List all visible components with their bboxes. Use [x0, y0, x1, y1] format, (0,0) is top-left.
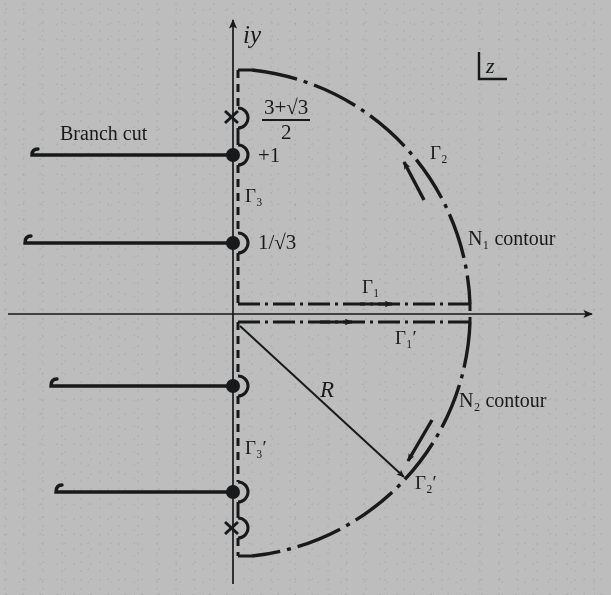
pole-upper-cross — [225, 111, 238, 123]
pole-lower-cross — [225, 522, 238, 534]
gamma1-label: Γ₁ — [362, 277, 380, 296]
branch-cut-4 — [56, 485, 233, 492]
gamma2-label: Γ₂ — [430, 143, 448, 162]
pole-upper-numerator: 3+√3 — [262, 97, 310, 121]
gamma3-prime-label: Γ₃′ — [245, 438, 267, 457]
branch-point-lower-b-dot — [226, 485, 240, 499]
imaginary-axis-label: iy — [243, 22, 261, 47]
branch-point-mid-label: 1/√3 — [258, 232, 296, 253]
gamma2-prime-arc — [252, 322, 470, 556]
branch-point-lower-a-dot — [226, 379, 240, 393]
gamma1-prime-path — [238, 317, 470, 322]
branch-cut-2 — [25, 236, 233, 243]
branch-point-mid-dot — [226, 236, 240, 250]
branch-cut-label: Branch cut — [60, 123, 147, 143]
radius-label: R — [320, 378, 334, 401]
branch-cut-1 — [32, 149, 233, 155]
gamma1-prime-label: Γ₁′ — [395, 328, 417, 347]
branch-point-upper-label: +1 — [258, 145, 280, 166]
branch-cut-3 — [51, 379, 233, 386]
branch-point-upper-dot — [226, 148, 240, 162]
pole-upper-denominator: 2 — [262, 121, 310, 143]
n1-contour-label: N₁ contour — [468, 228, 556, 248]
gamma1-path — [238, 304, 470, 311]
n2-contour-label: N₂ contour — [459, 390, 547, 410]
gamma2-prime-label: Γ₂′ — [415, 473, 437, 492]
pole-upper-value-label: 3+√3 2 — [262, 97, 310, 143]
complex-plane-contour-figure — [0, 0, 611, 595]
gamma3-label: Γ₃ — [245, 186, 263, 205]
z-plane-label: z — [486, 55, 495, 77]
